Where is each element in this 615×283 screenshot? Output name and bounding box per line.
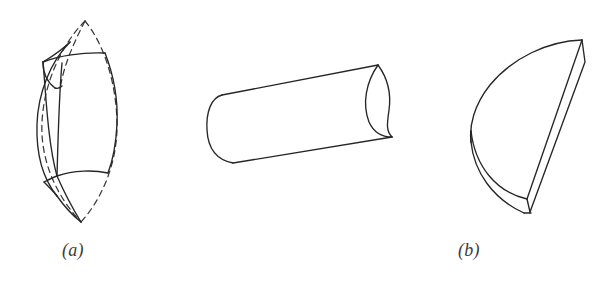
hidden-back-right-arc [81,21,117,222]
figure-panel-c: (c) [420,0,615,283]
body-right-silhouette [105,53,117,173]
panel-caption-a: (a) [62,240,84,261]
figure-panel-a: (a) [0,0,200,283]
front-meridian-edge [57,63,62,176]
inner-shell-arc [471,131,527,199]
figure-panel-b: (b) [190,0,415,283]
shape-lune-svg [0,0,200,283]
flat-face-left-edge [527,40,582,199]
upper-left-gore-inner [55,86,62,88]
figure-root: (a) (b) [0,0,615,283]
lower-rim-curve [57,171,108,176]
shape-cylindrical-trough-svg [190,0,415,283]
upper-rim-curve [43,53,105,62]
right-end-concave-cut [378,65,392,137]
outer-dome-arc [471,40,582,142]
shape-half-disc-wedge-svg [420,0,615,283]
bottom-rim-connector [527,199,530,212]
flat-face-right-edge [530,40,585,212]
outer-lower-arc [471,142,524,213]
hidden-inner-meridian [61,21,85,84]
bottom-edge [233,137,392,163]
lower-left-gore-arc [44,182,57,196]
left-end-cap-arc [207,95,233,163]
top-ridge-edge [222,65,378,95]
lower-front-facet-edge [57,176,81,222]
